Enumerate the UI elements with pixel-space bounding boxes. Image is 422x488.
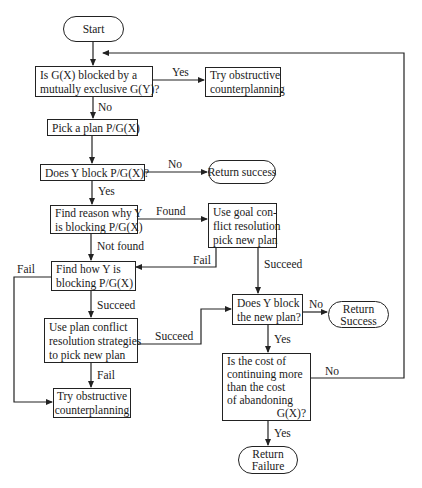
edge-label-yes: Yes bbox=[274, 333, 291, 346]
node-text: counterplanning bbox=[55, 403, 130, 417]
node-text: Success bbox=[340, 315, 376, 327]
node-text: Find how Y is bbox=[56, 262, 131, 276]
decision-goal-blocked: Is G(X) blocked by a mutually exclusive … bbox=[35, 66, 153, 97]
edge-label-no: No bbox=[325, 365, 339, 378]
process-plan-conflict-resolution: Use plan conflict resolution strategies … bbox=[44, 318, 138, 363]
terminal-return-success-2: Return Success bbox=[328, 301, 389, 328]
node-text: Return success bbox=[208, 165, 277, 179]
node-text: the new plan? bbox=[237, 310, 298, 324]
node-text: Return bbox=[343, 303, 374, 315]
process-find-reason: Find reason why Y is blocking P/G(X) bbox=[50, 205, 138, 234]
edge-label-succeed: Succeed bbox=[264, 258, 302, 271]
node-text: G(X)? bbox=[227, 407, 306, 420]
edge-label-yes: Yes bbox=[172, 66, 189, 79]
decision-y-blocks-plan: Does Y block P/G(X)? bbox=[40, 164, 145, 181]
start-terminal: Start bbox=[63, 16, 124, 42]
edge-label-yes: Yes bbox=[98, 185, 115, 198]
node-text: is blocking P/G(X) bbox=[55, 220, 133, 234]
decision-y-blocks-new-plan: Does Y block the new plan? bbox=[232, 294, 303, 325]
edge-label-found: Found bbox=[156, 205, 185, 218]
node-text: Pick a plan P/G(X) bbox=[52, 121, 133, 135]
edge-label-succeed: Succeed bbox=[155, 330, 193, 343]
node-text: resolution strategies bbox=[49, 334, 133, 348]
node-text: Find reason why Y bbox=[55, 206, 133, 220]
node-text: Is the cost of bbox=[227, 355, 306, 368]
edge-label-not-found: Not found bbox=[97, 240, 144, 253]
decision-cost-comparison: Is the cost of continuing more than the … bbox=[222, 353, 311, 421]
node-text: Does Y block bbox=[237, 296, 298, 310]
node-text: Try obstructive bbox=[210, 68, 276, 82]
node-text: of abandoning bbox=[227, 394, 306, 407]
node-text: Failure bbox=[252, 460, 285, 472]
process-goal-conflict-resolution: Use goal con- flict resolution pick new … bbox=[208, 203, 277, 248]
edge-label-no: No bbox=[309, 298, 323, 311]
terminal-return-success-1: Return success bbox=[208, 160, 276, 184]
node-text: to pick new plan bbox=[49, 348, 133, 362]
node-text: Does Y block P/G(X)? bbox=[45, 166, 140, 180]
node-text: than the cost bbox=[227, 381, 306, 394]
terminal-return-failure: Return Failure bbox=[238, 446, 298, 474]
edge-label-fail: Fail bbox=[17, 263, 35, 276]
node-text: counterplanning bbox=[210, 82, 276, 96]
node-text: Try obstructive bbox=[57, 389, 127, 403]
node-text: Return bbox=[252, 448, 283, 460]
edge-label-no: No bbox=[98, 101, 112, 114]
node-text: blocking P/G(X) bbox=[56, 276, 131, 290]
node-text: flict resolution bbox=[213, 219, 272, 233]
process-try-obstructive-2: Try obstructive counterplanning bbox=[53, 388, 131, 418]
node-text: Use plan conflict bbox=[49, 320, 133, 334]
process-find-how: Find how Y is blocking P/G(X) bbox=[51, 261, 136, 291]
node-text: Use goal con- bbox=[213, 205, 272, 219]
edge-label-no: No bbox=[168, 158, 182, 171]
node-text: pick new plan bbox=[213, 233, 272, 247]
edge-label-yes: Yes bbox=[274, 427, 291, 440]
node-text: continuing more bbox=[227, 368, 306, 381]
edge-label-fail: Fail bbox=[97, 369, 115, 382]
node-text: mutually exclusive G(Y)? bbox=[40, 82, 148, 96]
edge-label-fail: Fail bbox=[193, 254, 211, 267]
node-text: Is G(X) blocked by a bbox=[40, 68, 148, 82]
node-text: Start bbox=[83, 22, 105, 36]
process-try-obstructive-1: Try obstructive counterplanning bbox=[205, 67, 281, 97]
edge-label-succeed: Succeed bbox=[97, 299, 135, 312]
flowchart-canvas: Start Is G(X) blocked by a mutually excl… bbox=[0, 0, 422, 488]
process-pick-plan: Pick a plan P/G(X) bbox=[47, 119, 138, 136]
